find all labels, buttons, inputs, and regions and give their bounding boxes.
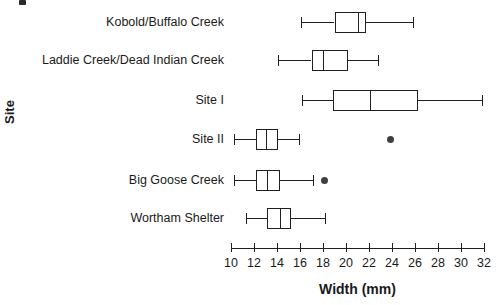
x-axis-tick	[369, 243, 370, 252]
whisker-high	[366, 22, 413, 23]
whisker-cap-high	[482, 95, 483, 106]
x-axis-tick-label: 32	[469, 256, 497, 270]
whisker-high	[280, 180, 312, 181]
outlier-point	[387, 136, 394, 143]
whisker-cap-low	[301, 17, 302, 28]
boxplot-figure: Site Kobold/Buffalo Creek Laddie Creek/D…	[0, 0, 497, 305]
median-line	[358, 12, 359, 33]
whisker-cap-low	[302, 95, 303, 106]
x-axis-tick	[438, 243, 439, 252]
whisker-high	[278, 139, 299, 140]
x-axis-tick	[254, 243, 255, 252]
box	[256, 129, 278, 150]
whisker-high	[418, 100, 481, 101]
whisker-cap-low	[278, 55, 279, 66]
whisker-low	[301, 22, 334, 23]
box	[335, 12, 366, 33]
median-line	[280, 208, 281, 229]
whisker-low	[246, 218, 267, 219]
x-axis-tick	[392, 243, 393, 252]
box	[333, 90, 418, 111]
box	[256, 170, 280, 191]
median-line	[267, 170, 268, 191]
whisker-cap-low	[234, 134, 235, 145]
x-axis-title: Width (mm)	[191, 281, 497, 297]
whisker-cap-high	[299, 134, 300, 145]
whisker-cap-high	[313, 175, 314, 186]
whisker-cap-low	[234, 175, 235, 186]
whisker-low	[302, 100, 333, 101]
x-axis-tick	[484, 243, 485, 252]
x-axis-tick	[415, 243, 416, 252]
whisker-cap-low	[246, 213, 247, 224]
whisker-low	[234, 139, 256, 140]
x-axis-tick	[300, 243, 301, 252]
whisker-cap-high	[378, 55, 379, 66]
x-axis-line	[231, 248, 485, 249]
whisker-cap-high	[413, 17, 414, 28]
x-axis-tick	[323, 243, 324, 252]
x-axis-tick	[231, 243, 232, 252]
whisker-low	[278, 60, 311, 61]
median-line	[323, 50, 324, 71]
x-axis-tick	[277, 243, 278, 252]
whisker-high	[291, 218, 326, 219]
whisker-high	[348, 60, 378, 61]
outlier-point	[321, 177, 328, 184]
box	[267, 208, 291, 229]
x-axis-tick	[461, 243, 462, 252]
plot-area	[0, 0, 497, 250]
box	[312, 50, 349, 71]
whisker-low	[234, 180, 256, 181]
x-axis-tick	[346, 243, 347, 252]
median-line	[266, 129, 267, 150]
whisker-cap-high	[325, 213, 326, 224]
median-line	[370, 90, 371, 111]
